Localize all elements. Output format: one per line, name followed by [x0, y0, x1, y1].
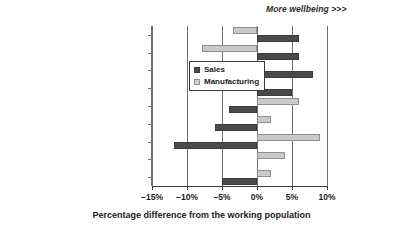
bar-row: Confidence level: [152, 133, 327, 151]
category-tick: [148, 70, 152, 71]
bar-manufacturing: [257, 98, 299, 105]
category-tick: [148, 124, 152, 125]
axis-tick-label: 5%: [286, 192, 298, 202]
axis-tick-label: 10%: [318, 192, 335, 202]
axis-tick: [292, 186, 293, 190]
axis-tick: [152, 186, 153, 190]
bar-manufacturing: [257, 170, 271, 177]
legend: Sales Manufacturing: [189, 61, 265, 91]
bar-row: Organisational satisfaction: [152, 44, 327, 62]
bar-sales: [229, 106, 257, 113]
axis-tick-label: 0%: [251, 192, 263, 202]
bar-row: Job satisfaction: [152, 26, 327, 44]
value-axis-line: [152, 186, 327, 187]
bar-row: Resilience: [152, 115, 327, 133]
category-tick: [148, 159, 152, 160]
legend-swatch-manufacturing: [194, 79, 200, 85]
bar-sales: [257, 35, 299, 42]
category-tick: [148, 53, 152, 54]
plot-area: −15%−10%−5%0%5%10% Job satisfactionOrgan…: [152, 26, 327, 186]
axis-tick-label: −15%: [141, 192, 163, 202]
legend-label-manufacturing: Manufacturing: [204, 77, 259, 87]
bar-manufacturing: [257, 116, 271, 123]
axis-tick: [327, 186, 328, 190]
bar-row: State of mind: [152, 97, 327, 115]
legend-item-manufacturing: Manufacturing: [194, 77, 259, 87]
bar-sales: [257, 71, 313, 78]
category-tick: [148, 106, 152, 107]
bar-sales: [222, 178, 257, 185]
bar-manufacturing: [257, 134, 320, 141]
axis-tick-label: −10%: [176, 192, 198, 202]
bar-manufacturing: [233, 27, 258, 34]
bar-sales: [257, 53, 299, 60]
chart-container: More wellbeing >>> −15%−10%−5%0%5%10% Jo…: [0, 0, 403, 233]
more-wellbeing-annotation: More wellbeing >>>: [266, 4, 346, 14]
axis-tick: [187, 186, 188, 190]
bar-row: Physical symptoms: [152, 150, 327, 168]
bar-sales: [174, 142, 257, 149]
category-tick: [148, 177, 152, 178]
gridline: [327, 26, 328, 186]
category-tick: [148, 142, 152, 143]
bar-manufacturing: [202, 45, 257, 52]
legend-swatch-sales: [194, 67, 200, 73]
legend-item-sales: Sales: [194, 65, 259, 75]
axis-tick: [222, 186, 223, 190]
category-tick: [148, 88, 152, 89]
category-tick: [148, 35, 152, 36]
axis-tick-label: −5%: [213, 192, 230, 202]
bar-manufacturing: [257, 152, 285, 159]
legend-label-sales: Sales: [204, 65, 225, 75]
bar-sales: [215, 124, 257, 131]
axis-tick: [257, 186, 258, 190]
bar-row: Energy level: [152, 168, 327, 186]
x-axis-title: Percentage difference from the working p…: [0, 210, 403, 220]
